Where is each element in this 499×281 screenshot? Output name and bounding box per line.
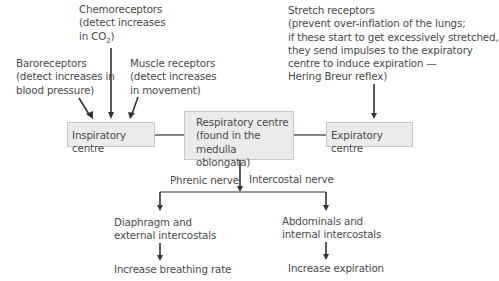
baroreceptors-desc-2: blood pressure) [16,84,115,97]
stretch-receptors-desc-2: if these start to get excessively stretc… [288,31,499,44]
stretch-receptors-desc-5: Hering Breur reflex) [288,70,499,83]
respiratory-centre-desc-2: medulla oblongata) [196,143,293,170]
respiratory-centre-desc-1: (found in the [196,129,293,142]
stretch-receptors-desc-4: centre to induce expiration — [288,57,499,70]
muscle-receptors-desc: (detect increases [130,70,216,83]
baroreceptors-title: Baroreceptors [16,57,115,70]
baroreceptors-label: Baroreceptors (detect increases in blood… [16,57,115,97]
stretch-receptors-title: Stretch receptors [288,4,499,17]
external-intercostals-label: external intercostals [114,229,216,242]
stretch-receptors-label: Stretch receptors (prevent over-inflatio… [288,4,499,84]
stretch-receptors-desc-1: (prevent over-inflation of the lungs; [288,17,499,30]
respiratory-centre-title: Respiratory centre [196,116,293,129]
inspiratory-centre-box: Inspiratory centre [67,122,155,147]
baroreceptors-desc: (detect increases in [16,70,115,83]
chemoreceptors-desc-co2: in CO2) [79,30,165,43]
chemoreceptors-desc: (detect increases [79,16,165,29]
increase-expiration-label: Increase expiration [288,262,384,275]
diaphragm-label: Diaphragm and [114,216,216,229]
intercostal-nerve-label: Intercostal nerve [249,173,334,186]
chemoreceptors-title: Chemoreceptors [79,3,165,16]
muscle-receptors-label: Muscle receptors (detect increases in mo… [130,57,216,97]
right-effector-label: Abdominals and internal intercostals [282,215,381,242]
expiratory-centre-box: Expiratory centre [326,122,413,147]
stretch-receptors-desc-3: they send impulses to the expiratory [288,44,499,57]
muscle-receptors-desc-2: in movement) [130,84,216,97]
muscle-receptors-title: Muscle receptors [130,57,216,70]
phrenic-nerve-label: Phrenic nerve [170,174,239,187]
chemoreceptors-label: Chemoreceptors (detect increases in CO2) [79,3,165,43]
respiratory-centre-box: Respiratory centre (found in the medulla… [184,111,294,160]
left-effector-label: Diaphragm and external intercostals [114,216,216,243]
internal-intercostals-label: internal intercostals [282,228,381,241]
abdominals-label: Abdominals and [282,215,381,228]
increase-breathing-rate-label: Increase breathing rate [114,263,231,276]
